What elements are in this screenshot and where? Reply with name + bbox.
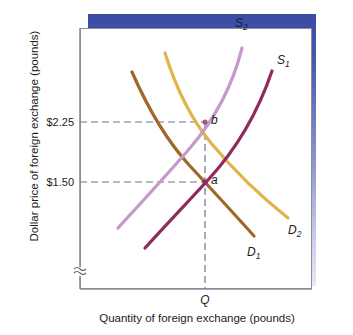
curve-label-d2: D2 (288, 223, 301, 239)
curve-label-s2: S2 (235, 16, 248, 32)
curve-label-s2-text: S (235, 16, 243, 30)
x-tick-label-q: Q (188, 293, 222, 307)
x-axis-title: Quantity of foreign exchange (pounds) (62, 312, 332, 324)
equilibrium-label-b: b (211, 113, 218, 127)
curve-label-s2-sub: 2 (243, 22, 248, 32)
equilibrium-point-a (202, 179, 207, 184)
curve-label-s1-text: S (277, 53, 285, 67)
equilibrium-label-a: a (211, 173, 218, 187)
equilibrium-point-b (202, 119, 207, 124)
chart-canvas (0, 0, 353, 335)
curve-label-d1: D1 (247, 245, 260, 261)
curve-s1 (145, 71, 272, 248)
y-axis-title: Dollar price of foreign exchange (pounds… (28, 42, 41, 242)
curve-d1 (132, 72, 254, 236)
curve-label-s1-sub: 1 (285, 59, 290, 69)
figure-container: $2.25 $1.50 Q Dollar price of foreign ex… (0, 0, 353, 335)
curve-label-d2-text: D (288, 223, 297, 237)
curve-label-s1: S1 (277, 53, 290, 69)
curve-label-d2-sub: 2 (297, 229, 302, 239)
curve-label-d1-text: D (247, 245, 256, 259)
curve-label-d1-sub: 1 (256, 251, 261, 261)
axis-break-icon (74, 267, 86, 276)
